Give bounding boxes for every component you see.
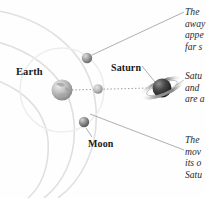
callout-bottom-line-3: its o [185, 157, 206, 169]
saturn-label-leader [142, 66, 155, 82]
callout-top-line-3: appe [185, 29, 206, 41]
body-moon-upper [82, 53, 92, 63]
label-moon: Moon [88, 138, 113, 149]
callout-middle-line-3: are a [185, 93, 206, 105]
callout-middle-line-2: and [185, 82, 206, 94]
top-callout-leader [92, 12, 184, 55]
callout-bottom-line-4: Satu [185, 169, 206, 181]
body-earth [52, 80, 73, 101]
callout-middle-text: Satu and are a [185, 70, 206, 105]
body-saturn [139, 74, 185, 103]
moon-label-leader [86, 128, 92, 137]
label-earth: Earth [16, 66, 43, 77]
astronomy-diagram: Earth Saturn Moon The away appe far s Sa… [0, 0, 206, 198]
callout-top-line-1: The [185, 6, 206, 18]
body-moon-middle [93, 84, 103, 94]
callout-top-line-4: far s [185, 41, 206, 53]
callout-bottom-line-1: The [185, 134, 206, 146]
callout-top-line-2: away [185, 18, 206, 30]
callout-middle-line-1: Satu [185, 70, 206, 82]
callout-bottom-line-2: mov [185, 146, 206, 158]
callout-bottom-text: The mov its o Satu [185, 134, 206, 180]
orbit-arcs [0, 8, 96, 198]
callout-top-text: The away appe far s [185, 6, 206, 52]
body-moon-lower [79, 117, 89, 127]
label-saturn: Saturn [111, 62, 141, 73]
diagram-canvas [0, 0, 206, 198]
sight-line [72, 88, 150, 90]
